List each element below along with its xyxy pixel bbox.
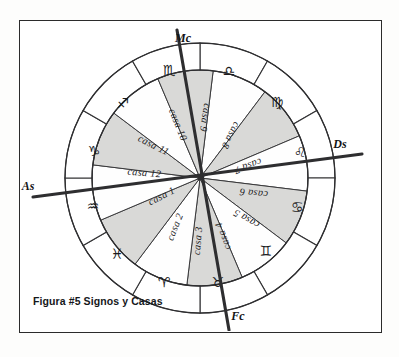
sign-gemini-glyph: ♊ xyxy=(260,243,273,259)
sign-capricorn-glyph: ♑ xyxy=(88,143,101,159)
sign-virgo-glyph: ♍ xyxy=(271,94,284,110)
axis-label-fc: Fc xyxy=(230,309,245,323)
figure-root: casa 1casa 2casa 3casa 4casa 5casa 6casa… xyxy=(0,0,399,357)
sign-aquarius-glyph: ♒ xyxy=(87,198,100,214)
axis-label-mc: Mc xyxy=(174,31,192,45)
chart-center-hub xyxy=(197,175,202,180)
sign-leo-glyph: ♌ xyxy=(294,144,307,160)
sign-scorpio-glyph: ♏ xyxy=(163,62,176,78)
sign-cancer-glyph: ♋ xyxy=(291,199,304,215)
sign-pisces-glyph: ♓ xyxy=(111,246,124,262)
axis-label-as: As xyxy=(21,179,35,193)
figure-caption: Figura #5 Signos y Casas xyxy=(33,295,163,307)
sign-libra-glyph: ♎ xyxy=(223,63,236,79)
sign-aries-glyph: ♈ xyxy=(158,274,171,290)
sign-sagittarius-glyph: ♐ xyxy=(117,95,130,111)
axis-label-ds: Ds xyxy=(332,137,347,151)
